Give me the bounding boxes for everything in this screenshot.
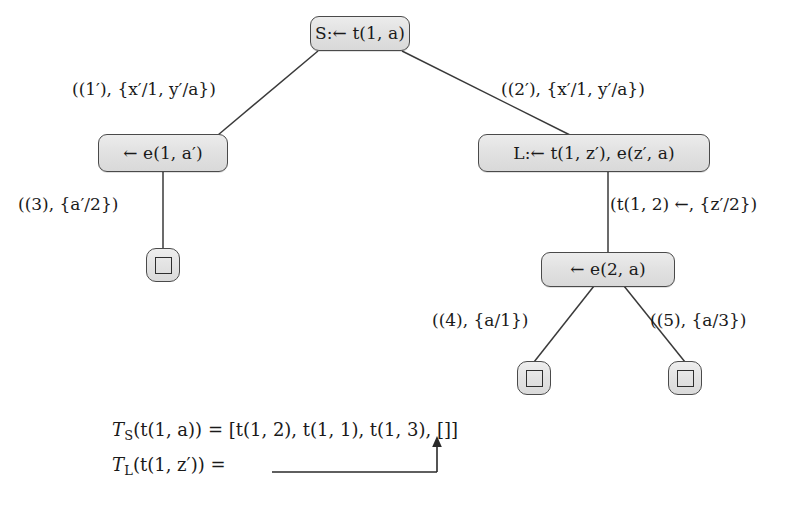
- edge-root-to-left: [218, 51, 318, 135]
- edge-label-right-e2a: (t(1, 2) ←, {z′/2}): [610, 196, 757, 213]
- formula-tl-symbol: T: [112, 454, 124, 475]
- formula-tl: TL(t(1, z′)) =: [112, 456, 226, 478]
- edge-label-root-right: ((2′), {x′/1, y′/a}): [501, 81, 645, 98]
- edge-label-e2a-leaf5: ((5), {a/3}): [650, 312, 746, 329]
- figure-canvas: S:← t(1, a) ← e(1, a′) L:← t(1, z′), e(z…: [0, 0, 812, 514]
- empty-clause-icon: [155, 257, 172, 274]
- edge-e2a-to-leaf4: [534, 286, 594, 362]
- node-right-L[interactable]: L:← t(1, z′), e(z′, a): [478, 134, 710, 172]
- formula-tl-subscript: L: [124, 463, 133, 478]
- node-right-L-label: L:← t(1, z′), e(z′, a): [511, 145, 676, 162]
- node-root-label: S:← t(1, a): [313, 25, 407, 42]
- leaf-empty-clause-1[interactable]: [146, 248, 180, 282]
- empty-clause-icon: [677, 370, 694, 387]
- edge-label-left-leaf1: ((3), {a′/2}): [18, 196, 118, 213]
- leaf-empty-clause-4[interactable]: [517, 361, 551, 395]
- empty-clause-icon: [526, 370, 543, 387]
- formula-ts-argument: (t(1, a)): [133, 419, 202, 440]
- edge-label-e2a-leaf4: ((4), {a/1}): [432, 312, 528, 329]
- formula-tl-equals: =: [210, 454, 225, 475]
- formula-ts: TS(t(1, a)) = [t(1, 2), t(1, 1), t(1, 3)…: [112, 421, 458, 443]
- formula-ts-subscript: S: [124, 428, 133, 443]
- node-left-e1a-label: ← e(1, a′): [121, 145, 205, 162]
- node-left-e1a[interactable]: ← e(1, a′): [98, 134, 228, 172]
- edge-label-root-left: ((1′), {x′/1, y′/a}): [72, 81, 216, 98]
- formula-ts-symbol: T: [112, 419, 124, 440]
- formula-ts-rhs: [t(1, 2), t(1, 1), t(1, 3), []]: [229, 419, 458, 440]
- node-root[interactable]: S:← t(1, a): [310, 16, 410, 51]
- node-e2a[interactable]: ← e(2, a): [541, 252, 675, 287]
- formula-tl-argument: (t(1, z′)): [133, 454, 205, 475]
- node-e2a-label: ← e(2, a): [568, 261, 648, 278]
- leaf-empty-clause-5[interactable]: [668, 361, 702, 395]
- formula-ts-equals: =: [208, 419, 223, 440]
